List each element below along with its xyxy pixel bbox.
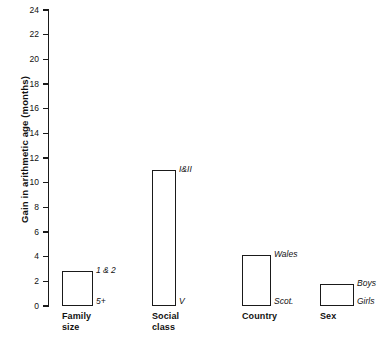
bar-top-label: 1 & 2 xyxy=(96,266,116,275)
bar-rect[interactable] xyxy=(242,255,271,306)
y-tick-label: 2 xyxy=(5,277,39,286)
bar-bottom-label: Girls xyxy=(357,297,374,306)
bar-category-label: Social class xyxy=(152,311,179,332)
bar-rect[interactable] xyxy=(62,271,93,306)
bar-category-label: Sex xyxy=(320,311,336,322)
bar-rect[interactable] xyxy=(320,284,354,306)
y-tick-label: 8 xyxy=(5,203,39,212)
y-tick-label: 14 xyxy=(5,129,39,138)
y-axis-title: Gain in arithmetic age (months) xyxy=(19,40,30,260)
y-tick-mark xyxy=(43,305,49,306)
bar-category-label: Family size xyxy=(62,311,91,332)
y-tick-mark xyxy=(43,9,49,10)
y-tick-mark xyxy=(43,256,49,257)
y-tick-label: 20 xyxy=(5,55,39,64)
y-tick-mark xyxy=(43,207,49,208)
y-tick-mark xyxy=(43,157,49,158)
chart-figure: Gain in arithmetic age (months) 24222018… xyxy=(0,0,386,339)
y-tick-mark xyxy=(43,281,49,282)
y-tick-mark xyxy=(43,133,49,134)
bar-top-label: I&II xyxy=(179,165,192,174)
y-tick-label: 10 xyxy=(5,178,39,187)
y-tick-mark xyxy=(43,182,49,183)
y-tick-mark xyxy=(43,59,49,60)
y-tick-label: 6 xyxy=(5,228,39,237)
y-tick-label: 4 xyxy=(5,252,39,261)
bar-bottom-label: 5+ xyxy=(96,297,106,306)
y-tick-label: 24 xyxy=(5,6,39,15)
y-tick-label: 0 xyxy=(5,302,39,311)
bar-category-label: Country xyxy=(242,311,277,322)
y-tick-mark xyxy=(43,34,49,35)
y-tick-label: 22 xyxy=(5,30,39,39)
y-tick-mark xyxy=(43,83,49,84)
bar-bottom-label: Scot. xyxy=(274,297,293,306)
bar-top-label: Boys xyxy=(357,279,376,288)
bar-rect[interactable] xyxy=(152,170,176,306)
y-tick-label: 12 xyxy=(5,154,39,163)
bar-top-label: Wales xyxy=(274,250,297,259)
y-tick-label: 16 xyxy=(5,104,39,113)
bar-bottom-label: V xyxy=(179,297,185,306)
y-tick-mark xyxy=(43,231,49,232)
y-tick-mark xyxy=(43,108,49,109)
y-tick-label: 18 xyxy=(5,80,39,89)
